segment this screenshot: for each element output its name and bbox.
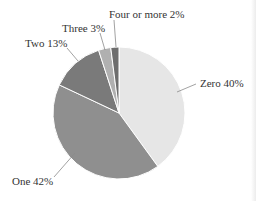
label-zero: Zero 40% <box>200 77 244 89</box>
leader-line-four <box>114 20 116 47</box>
leader-line-three <box>100 33 105 50</box>
label-two: Two 13% <box>25 37 67 49</box>
label-three: Three 3% <box>62 22 105 34</box>
pie-slices <box>53 47 185 179</box>
page-edge <box>251 0 256 201</box>
pie-chart: Zero 40% One 42% Two 13% Three 3% Four o… <box>0 0 256 201</box>
leader-line-one <box>54 153 75 177</box>
label-one: One 42% <box>12 175 53 187</box>
label-four: Four or more 2% <box>109 8 184 20</box>
leader-line-two <box>67 48 78 61</box>
